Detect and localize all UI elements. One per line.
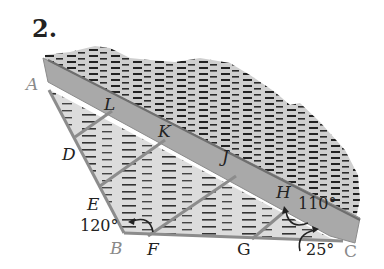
label-B: B <box>110 240 123 257</box>
angle-H-label: 110° <box>298 196 337 212</box>
label-K: K <box>158 123 171 140</box>
label-A: A <box>26 76 38 93</box>
label-J: J <box>222 148 229 165</box>
label-H: H <box>276 184 291 201</box>
label-F: F <box>147 241 159 258</box>
problem-number: 2. <box>32 14 57 43</box>
label-G: G <box>237 241 251 258</box>
label-C: C <box>344 243 357 260</box>
geometry-figure: 2. A L K D J E H 110° 120° B F G 25° C <box>0 0 384 269</box>
angle-B-label: 120° <box>80 218 119 234</box>
label-E: E <box>87 196 99 213</box>
label-L: L <box>104 96 115 113</box>
figure-drawing <box>0 0 384 269</box>
label-D: D <box>62 146 76 163</box>
angle-C-label: 25° <box>306 242 334 258</box>
